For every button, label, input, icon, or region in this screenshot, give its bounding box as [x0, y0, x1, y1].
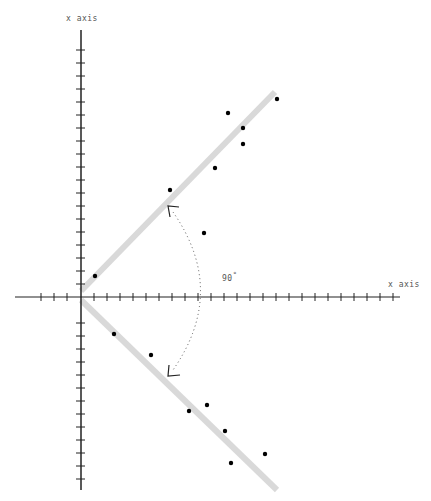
dotted-arc — [173, 212, 201, 370]
data-point — [226, 111, 230, 115]
data-point — [149, 353, 153, 357]
data-point — [205, 403, 209, 407]
x-axis-label: x axis — [388, 280, 420, 289]
lower-line — [81, 300, 277, 490]
data-point — [241, 126, 245, 130]
data-point — [263, 452, 267, 456]
lower-arrow — [168, 365, 180, 376]
data-point — [112, 332, 116, 336]
angle-value: 90 — [222, 274, 233, 283]
data-point — [202, 231, 206, 235]
angle-arc — [173, 212, 201, 370]
arrows — [168, 206, 180, 376]
regression-bands — [81, 92, 277, 490]
data-point — [93, 274, 97, 278]
data-point — [229, 461, 233, 465]
upper-arrow — [168, 206, 179, 217]
data-point — [223, 429, 227, 433]
degree-symbol: ° — [233, 271, 238, 279]
y-axis-label: x axis — [66, 14, 98, 23]
data-point — [187, 409, 191, 413]
diagram-canvas — [0, 0, 431, 501]
upper-line — [81, 92, 275, 291]
data-point — [241, 142, 245, 146]
data-point — [168, 188, 172, 192]
data-point — [275, 97, 279, 101]
data-point — [213, 166, 217, 170]
angle-label: 90° — [222, 271, 237, 283]
data-points — [93, 97, 279, 465]
